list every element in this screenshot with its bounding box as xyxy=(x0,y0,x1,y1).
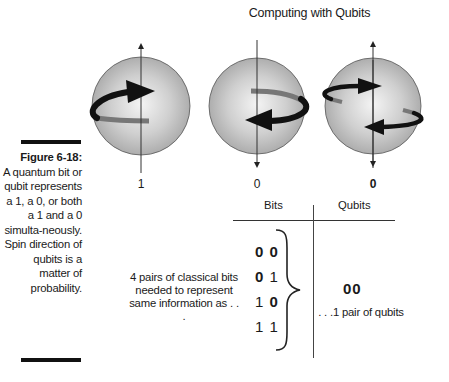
qubit-sphere-2 xyxy=(209,40,306,165)
state-label-3: 0 xyxy=(363,177,383,191)
figure-label: Figure 6-18: xyxy=(0,150,82,165)
caption-top-rule xyxy=(21,140,81,144)
state-label-1: 1 xyxy=(131,177,151,191)
qubit-sphere-3 xyxy=(324,44,421,168)
qubit-sphere-1 xyxy=(92,46,190,173)
column-header-bits: Bits xyxy=(264,199,283,211)
classical-bits-note: 4 pairs of classical bits needed to repr… xyxy=(128,271,240,323)
curly-brace-icon xyxy=(272,228,312,352)
caption-text: A quantum bit or qubit represents a 1, a… xyxy=(3,166,82,294)
qubit-pair-note: . . .1 pair of qubits xyxy=(314,306,408,318)
caption-bottom-rule xyxy=(21,358,81,362)
table-header-divider xyxy=(233,220,395,221)
state-label-2: 0 xyxy=(247,177,267,191)
figure-caption: Figure 6-18: A quantum bit or qubit repr… xyxy=(0,150,82,295)
column-header-qubits: Qubits xyxy=(338,199,371,211)
table-column-divider xyxy=(313,205,314,358)
qubit-pair-value: 00 xyxy=(343,280,362,297)
